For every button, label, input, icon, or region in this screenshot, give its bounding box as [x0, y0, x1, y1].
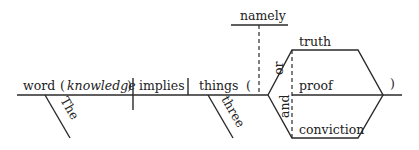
compound-item-truth: truth	[299, 34, 331, 49]
modifier-the: The	[57, 94, 82, 122]
object-close-paren: )	[390, 76, 395, 91]
object-open-paren: (	[246, 78, 251, 93]
compound-item-conviction: conviction	[299, 122, 364, 137]
subject-close-paren: )	[127, 78, 132, 93]
conjunction-or: or	[271, 61, 286, 75]
verb-word: implies	[139, 78, 185, 93]
subject-appositive: knowledge	[67, 78, 136, 93]
subject-open-paren: (	[60, 78, 65, 93]
compound-item-proof: proof	[299, 78, 334, 93]
object-word: things	[199, 78, 239, 93]
sentence-diagram: word ( knowledge ) implies things ( The …	[0, 0, 419, 150]
namely-word: namely	[240, 8, 287, 23]
conjunction-and: and	[277, 94, 292, 118]
subject-word: word	[23, 78, 55, 93]
modifier-three: three	[218, 93, 248, 130]
